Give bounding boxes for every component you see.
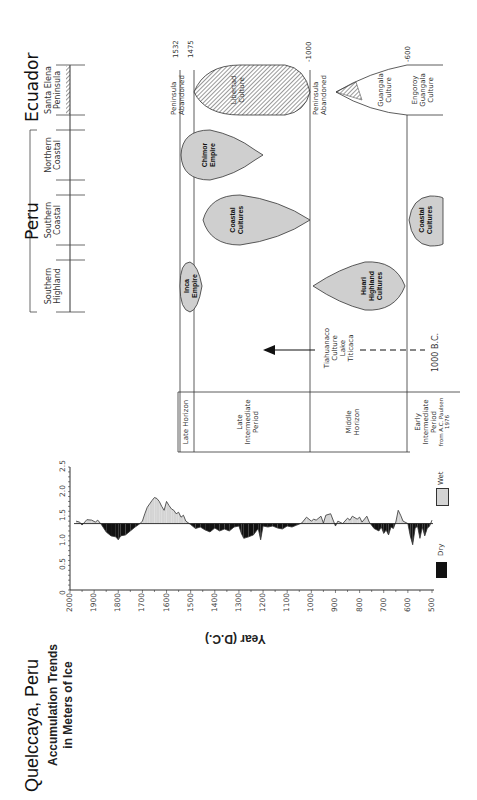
- y-tick-label: 1.5: [58, 509, 67, 521]
- legend-dry-swatch: [436, 562, 447, 578]
- x-tick-label: 600: [403, 598, 412, 612]
- x-tick-label: 900: [330, 598, 339, 612]
- y-tick-label: 1.0: [58, 534, 67, 546]
- x-tick-label: 1100: [282, 593, 291, 612]
- chart-title: Quelccaya, Peru: [22, 659, 43, 792]
- x-tick-label: 800: [355, 598, 364, 612]
- y-tick-label: 2.0: [58, 485, 67, 497]
- x-tick-label: 700: [379, 598, 388, 612]
- x-tick-label: 2000: [65, 593, 74, 612]
- y-tick-label: 2.5: [58, 460, 67, 472]
- chart-subtitle: Accumulation Trendsin Meters of Ice: [46, 635, 76, 775]
- legend-wet-swatch: [436, 488, 449, 506]
- x-tick-label: 1300: [234, 593, 243, 612]
- x-tick-label: 500: [427, 598, 436, 612]
- x-tick-label: 1500: [186, 593, 195, 612]
- y-tick-label: 0.5: [58, 558, 67, 570]
- legend-wet-label: Wet: [437, 471, 445, 485]
- x-tick-label: 1400: [210, 593, 219, 612]
- x-tick-label: 1900: [89, 593, 98, 612]
- x-tick-label: 1800: [113, 593, 122, 612]
- legend-dry-label: Dry: [437, 544, 445, 556]
- x-tick-label: 1000: [306, 593, 315, 612]
- x-tick-label: 1600: [162, 593, 171, 612]
- x-axis-label: Year (D.C.): [205, 632, 266, 646]
- x-tick-label: 1700: [137, 593, 146, 612]
- x-tick-label: 1200: [258, 593, 267, 612]
